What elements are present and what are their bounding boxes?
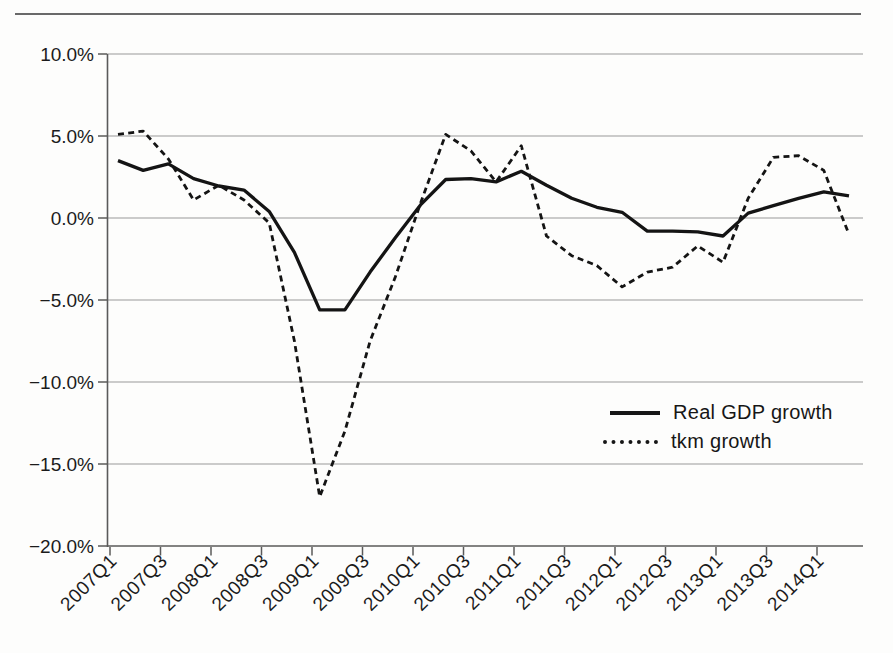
y-tick-label: −5.0% [40,290,95,311]
y-tick-label: −10.0% [29,372,94,393]
legend: Real GDP growth tkm growth [603,399,833,455]
legend-item-real-gdp: Real GDP growth [603,399,833,426]
x-tick-label: 2011Q1 [461,550,525,614]
y-tick-label: 10.0% [40,44,94,65]
legend-label-real-gdp: Real GDP growth [673,401,833,424]
legend-label-tkm: tkm growth [671,430,772,453]
y-tick-label: −15.0% [29,454,94,475]
dotted-line-swatch-icon [603,440,658,444]
x-tick-label: 2014Q1 [763,550,828,615]
legend-item-tkm: tkm growth [603,428,833,455]
y-tick-label: −20.0% [29,536,94,557]
series-real-gdp-line [118,161,849,310]
line-chart: 10.0%5.0%0.0%−5.0%−10.0%−15.0%−20.0%2007… [0,0,893,653]
y-tick-label: 0.0% [51,208,94,229]
solid-line-swatch-icon [610,411,660,415]
figure-page: 10.0%5.0%0.0%−5.0%−10.0%−15.0%−20.0%2007… [0,0,893,653]
y-tick-label: 5.0% [51,126,94,147]
x-tick-label: 2010Q3 [410,550,475,615]
